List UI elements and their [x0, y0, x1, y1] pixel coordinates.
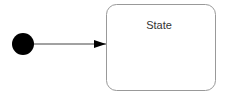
state-node[interactable]: State: [107, 5, 216, 91]
initial-state-icon: [12, 33, 34, 55]
initial-state-node[interactable]: [12, 33, 34, 55]
state-label: State: [146, 19, 172, 31]
state-box: [107, 5, 216, 91]
state-diagram-canvas: State: [0, 0, 226, 97]
